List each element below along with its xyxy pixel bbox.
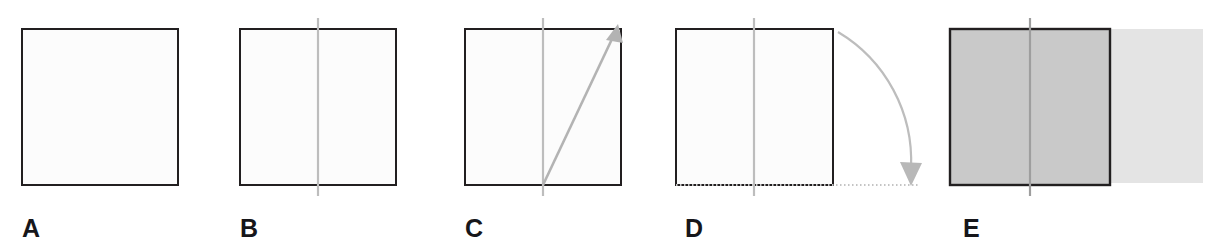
panel-b-graphic <box>218 0 428 249</box>
panel-e: E <box>936 0 1218 249</box>
panel-a: A <box>0 0 210 249</box>
rotation-arc-arrow-head <box>900 162 922 186</box>
rotation-arc-path <box>838 32 911 168</box>
panel-e-label: E <box>963 216 980 241</box>
panel-c-graphic <box>440 0 670 249</box>
panel-d: D <box>668 0 930 249</box>
panel-a-graphic <box>0 0 210 249</box>
panel-c: C <box>440 0 670 249</box>
panel-e-graphic <box>936 0 1218 249</box>
panel-d-graphic <box>668 0 930 249</box>
figure-panel-series: A B C D <box>0 0 1218 249</box>
panel-b-label: B <box>240 216 258 241</box>
swept-region-fill <box>1110 29 1203 183</box>
panel-c-label: C <box>465 216 483 241</box>
panel-d-label: D <box>685 216 703 241</box>
panel-b: B <box>218 0 428 249</box>
panel-a-label: A <box>22 216 40 241</box>
square-outline <box>22 29 178 185</box>
rotation-arc-arrow <box>838 32 922 186</box>
